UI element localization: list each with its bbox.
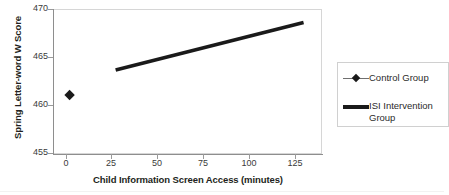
y-axis-title: Spring Letter-word W Score bbox=[12, 0, 23, 158]
legend-item-control-group[interactable]: Control Group bbox=[343, 72, 429, 85]
legend-item-isi-intervention-group[interactable]: ISI Intervention Group bbox=[343, 100, 447, 123]
legend-item-label: Control Group bbox=[369, 72, 429, 84]
bottom-edge-artifact bbox=[0, 191, 444, 192]
diamond-marker-icon bbox=[343, 73, 369, 85]
data-point-marker bbox=[64, 90, 74, 100]
thick-line-icon bbox=[343, 101, 369, 113]
series-line bbox=[116, 23, 304, 70]
x-axis-title: Child Information Screen Access (minutes… bbox=[53, 174, 323, 185]
legend: Control Group ISI Intervention Group bbox=[337, 62, 449, 127]
legend-item-label: ISI Intervention Group bbox=[369, 100, 447, 123]
